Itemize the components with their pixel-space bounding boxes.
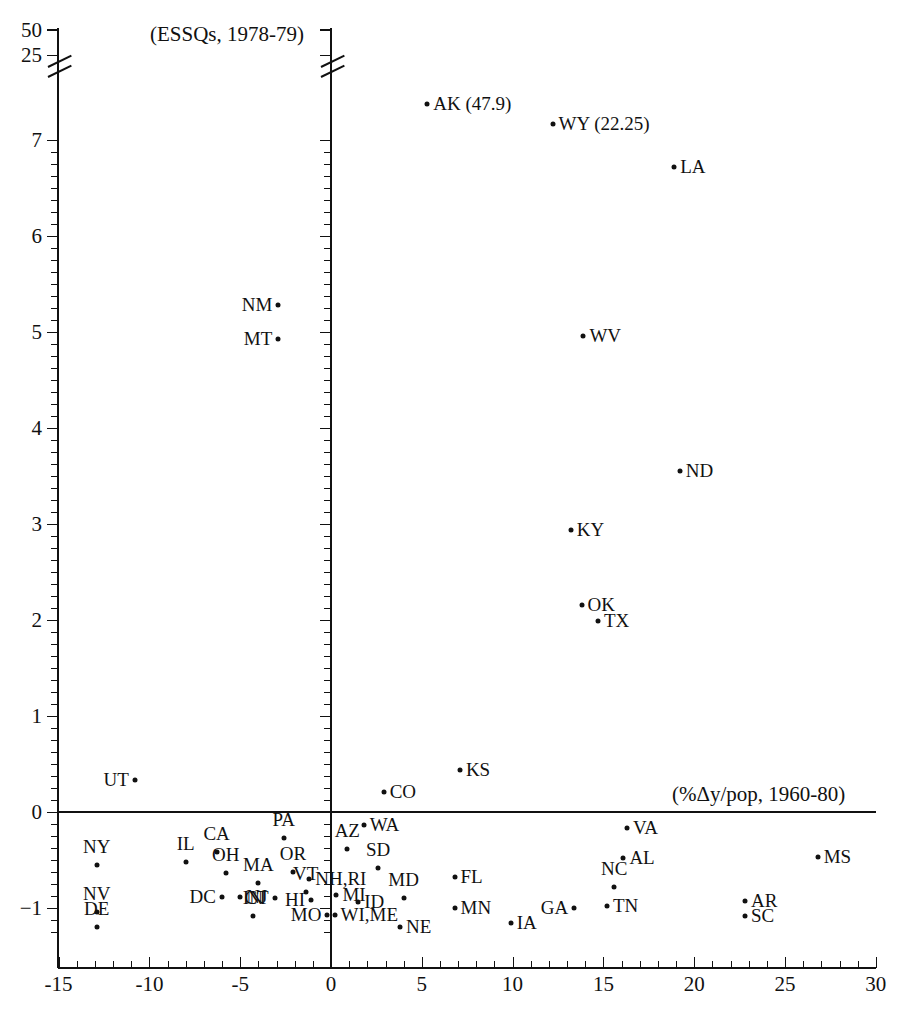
y-tick-left-0.000 xyxy=(47,812,58,813)
data-point-TX[interactable] xyxy=(596,619,601,624)
y-tick-center-0.250 xyxy=(324,788,331,789)
data-point-LA[interactable] xyxy=(672,164,677,169)
x-tick--11 xyxy=(131,961,132,968)
data-point-AZ[interactable] xyxy=(345,846,350,851)
data-point-ND[interactable] xyxy=(677,469,682,474)
data-point-IA[interactable] xyxy=(508,921,513,926)
data-point-MI[interactable] xyxy=(334,892,339,897)
data-point-FL[interactable] xyxy=(452,875,457,880)
y-tick-left-4.000 xyxy=(47,428,58,429)
data-point-label-AL: AL xyxy=(629,847,654,869)
data-point-KY[interactable] xyxy=(568,527,573,532)
data-point-label-OH: OH xyxy=(212,844,239,866)
y-tick-center-3.625 xyxy=(324,464,331,465)
x-tick-1 xyxy=(349,961,350,968)
data-point-label-OR: OR xyxy=(280,843,306,865)
data-point-SD[interactable] xyxy=(376,865,381,870)
data-point-IN[interactable] xyxy=(250,913,255,918)
y-tick-left--0.375 xyxy=(51,848,58,849)
x-tick--3 xyxy=(277,961,278,968)
y-tick-center-6.875 xyxy=(324,152,331,153)
data-point-DC[interactable] xyxy=(220,895,225,900)
data-point-TN[interactable] xyxy=(605,904,610,909)
y-tick-center-7.000 xyxy=(320,140,331,141)
x-tick-label-5: 5 xyxy=(417,972,428,997)
x-tick-30 xyxy=(876,957,877,968)
data-point-label-VT: VT xyxy=(293,863,318,885)
y-tick-left-1.625 xyxy=(51,656,58,657)
data-point-WA[interactable] xyxy=(361,822,366,827)
y-tick-center-1.250 xyxy=(324,692,331,693)
y-tick-left-4.125 xyxy=(51,416,58,417)
y-tick-left-3.625 xyxy=(51,464,58,465)
data-point-AR[interactable] xyxy=(743,899,748,904)
data-point-MD[interactable] xyxy=(401,896,406,901)
data-point-WY[interactable] xyxy=(550,121,555,126)
y-tick-center-4.500 xyxy=(324,380,331,381)
data-point-label-CA: CA xyxy=(203,823,229,845)
x-tick-5 xyxy=(422,957,423,968)
x-tick-3 xyxy=(386,961,387,968)
data-point-OH[interactable] xyxy=(223,870,228,875)
data-point-OK[interactable] xyxy=(579,602,584,607)
data-point-MA[interactable] xyxy=(256,881,261,886)
y-tick-center--0.125 xyxy=(324,824,331,825)
y-tick-left-2.000 xyxy=(47,620,58,621)
x-tick-label-20: 20 xyxy=(684,972,705,997)
data-point-label-MI: MI xyxy=(342,884,365,906)
y-tick-center-2.250 xyxy=(324,596,331,597)
data-point-CT[interactable] xyxy=(272,896,277,901)
x-tick-21 xyxy=(712,961,713,968)
x-tick-23 xyxy=(749,961,750,968)
data-point-label-MS: MS xyxy=(824,846,851,868)
data-point-MN[interactable] xyxy=(452,906,457,911)
y-tick-center--0.250 xyxy=(324,836,331,837)
data-point-label-MO: MO xyxy=(291,904,322,926)
data-point-AK[interactable] xyxy=(425,101,430,106)
data-point-VA[interactable] xyxy=(625,826,630,831)
y-tick-left-5.625 xyxy=(51,272,58,273)
data-point-label-DC: DC xyxy=(190,886,216,908)
data-point-WI-ME[interactable] xyxy=(332,912,337,917)
y-tick-left--1.125 xyxy=(51,920,58,921)
y-tick-center--0.375 xyxy=(324,848,331,849)
data-point-CO[interactable] xyxy=(381,789,386,794)
data-point-WV[interactable] xyxy=(581,333,586,338)
y-tick-left-3.875 xyxy=(51,440,58,441)
y-tick-center-1.125 xyxy=(324,704,331,705)
data-point-NE[interactable] xyxy=(398,925,403,930)
data-point-PA[interactable] xyxy=(281,835,286,840)
data-point-GA[interactable] xyxy=(572,906,577,911)
data-point-NC[interactable] xyxy=(612,884,617,889)
y-tick-left--0.500 xyxy=(51,860,58,861)
y-tick-center-6.500 xyxy=(324,188,331,189)
data-point-NY[interactable] xyxy=(94,862,99,867)
data-point-HI[interactable] xyxy=(309,898,314,903)
data-point-DE[interactable] xyxy=(94,925,99,930)
data-point-MT[interactable] xyxy=(276,336,281,341)
data-point-label-DE: DE xyxy=(84,898,109,920)
y-tick-left-5.750 xyxy=(51,260,58,261)
data-point-IL[interactable] xyxy=(183,859,188,864)
y-tick-center-2.875 xyxy=(324,536,331,537)
data-point-MO[interactable] xyxy=(325,912,330,917)
y-tick-left-2.250 xyxy=(51,596,58,597)
y-tick-left-5.875 xyxy=(51,248,58,249)
data-point-MS[interactable] xyxy=(815,855,820,860)
y-tick-left-1.125 xyxy=(51,704,58,705)
y-tick-center-1.500 xyxy=(324,668,331,669)
data-point-NM[interactable] xyxy=(276,303,281,308)
x-tick--6 xyxy=(222,961,223,968)
y-tick-center-4.625 xyxy=(324,368,331,369)
data-point-label-UT: UT xyxy=(104,769,129,791)
y-tick-label-1: 1 xyxy=(0,704,42,729)
x-tick-28 xyxy=(840,961,841,968)
y-tick-center--1.250 xyxy=(324,932,331,933)
y-tick-left-0.250 xyxy=(51,788,58,789)
y-tick-center-5.625 xyxy=(324,272,331,273)
data-point-label-IL: IL xyxy=(177,833,195,855)
data-point-KS[interactable] xyxy=(457,767,462,772)
y-tick-left-4.750 xyxy=(51,356,58,357)
data-point-UT[interactable] xyxy=(132,778,137,783)
data-point-SC[interactable] xyxy=(743,913,748,918)
